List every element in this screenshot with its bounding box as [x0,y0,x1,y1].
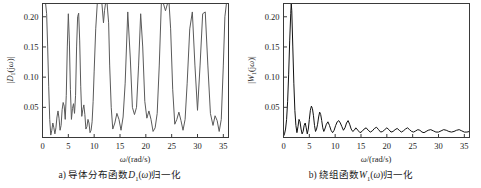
y-tick-label: 0.05 [265,102,280,112]
caption-a: a) 导体分布函数D1(ω)归一化 [0,167,240,182]
x-axis-label-a: ω/(rad/s) [120,154,151,164]
caption-a-arg: (ω) [138,170,151,180]
x-tick-label: 15 [357,141,366,151]
caption-b-text: 绕组函数 [319,170,359,180]
caption-a-prefix: a) [59,170,66,180]
x-tick-label: 35 [219,141,228,151]
plot-a: 05101520253035 0.050.100.150.20 ω/(rad/s… [0,0,240,170]
x-tick-label: 15 [116,141,125,151]
x-tick-label: 25 [408,141,417,151]
caption-a-text: 导体分布函数 [68,170,128,180]
x-tick-label: 30 [434,141,443,151]
y-tick-label: 0.10 [24,72,39,82]
y-axis-label-a: |D1(jω)| [5,56,16,83]
caption-b: b) 绕组函数W1(ω)归一化 [241,167,481,182]
caption-b-suffix: 归一化 [383,170,413,180]
y-tick-label: 0.10 [265,72,280,82]
panel-a: 05101520253035 0.050.100.150.20 ω/(rad/s… [0,0,240,188]
x-tick-label: 20 [142,141,151,151]
plot-b: 05101520253035 0.050.100.150.20 ω/(rad/s… [241,0,481,170]
x-axis-label-b: ω/(rad/s) [361,154,392,164]
y-tick-label: 0.05 [24,102,39,112]
x-tick-label: 10 [331,141,340,151]
caption-b-symbol: W [359,170,367,180]
x-tick-label: 0 [281,141,285,151]
y-tick-label: 0.15 [24,42,39,52]
x-tick-label: 5 [307,141,311,151]
y-tick-label: 0.20 [265,12,280,22]
x-tick-label: 5 [66,141,70,151]
plot-frame-b [284,4,470,138]
caption-a-suffix: 归一化 [151,170,181,180]
y-tick-label: 0.20 [24,12,39,22]
y-tick-label: 0.15 [265,42,280,52]
x-tick-label: 10 [90,141,99,151]
x-tick-label: 20 [383,141,392,151]
panel-b: 05101520253035 0.050.100.150.20 ω/(rad/s… [241,0,481,188]
y-axis-label-b: |W1(jω)| [246,56,257,84]
x-tick-label: 25 [167,141,176,151]
caption-b-prefix: b) [309,170,317,180]
caption-b-arg: (ω) [370,170,383,180]
figure-container: 05101520253035 0.050.100.150.20 ω/(rad/s… [0,0,481,188]
x-tick-label: 35 [460,141,469,151]
x-tick-label: 30 [193,141,202,151]
x-tick-label: 0 [40,141,44,151]
